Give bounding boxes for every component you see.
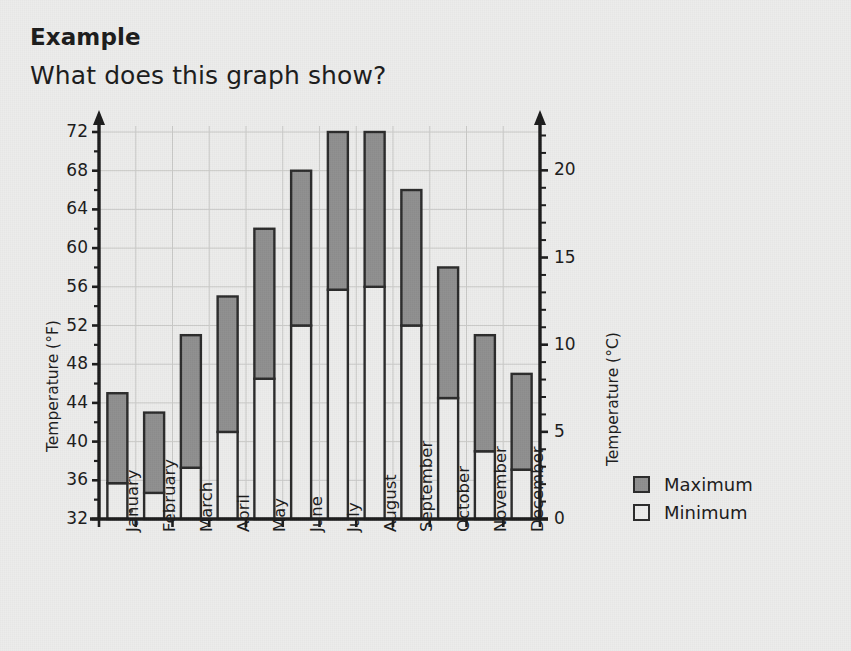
y-tick-label-left-32: 32 <box>40 508 88 528</box>
x-axis-label-april: April <box>234 494 253 532</box>
y-tick-label-left-36: 36 <box>40 469 88 489</box>
y-tick-label-left-40: 40 <box>40 431 88 451</box>
bar-segment-maximum <box>438 267 458 398</box>
legend-label-maximum: Maximum <box>664 474 753 495</box>
y-tick-label-left-52: 52 <box>40 315 88 335</box>
y-tick-label-right-20: 20 <box>554 159 600 179</box>
bar-segment-maximum <box>218 296 238 431</box>
x-axis-label-november: November <box>491 446 510 532</box>
x-axis-label-august: August <box>381 474 400 532</box>
y-tick-label-left-68: 68 <box>40 160 88 180</box>
y-tick-label-right-0: 0 <box>554 508 600 528</box>
bar-segment-maximum <box>181 335 201 468</box>
temperature-range-chart: Temperature (°F) Temperature (°C) 323640… <box>0 0 851 651</box>
y-tick-label-right-10: 10 <box>554 334 600 354</box>
bar-segment-maximum <box>254 229 274 379</box>
y-axis-right-arrowhead <box>534 110 546 125</box>
legend-label-minimum: Minimum <box>664 502 747 523</box>
x-axis-label-may: May <box>270 498 289 532</box>
bar-april[interactable] <box>218 296 238 519</box>
x-axis-label-october: October <box>454 466 473 532</box>
x-axis-label-march: March <box>197 482 216 532</box>
y-tick-label-left-44: 44 <box>40 392 88 412</box>
y-tick-label-left-56: 56 <box>40 276 88 296</box>
x-axis-label-june: June <box>307 496 326 532</box>
y-tick-label-left-48: 48 <box>40 353 88 373</box>
bar-segment-maximum <box>401 190 421 325</box>
y-tick-label-right-15: 15 <box>554 247 600 267</box>
x-axis-label-january: January <box>123 469 142 532</box>
bar-july[interactable] <box>328 132 348 519</box>
x-axis-label-july: July <box>344 502 363 532</box>
legend-swatch-maximum <box>633 476 650 493</box>
y-tick-label-left-72: 72 <box>40 121 88 141</box>
y-tick-label-left-60: 60 <box>40 237 88 257</box>
bar-segment-maximum <box>365 132 385 287</box>
y-axis-title-right: Temperature (°C) <box>604 332 622 466</box>
y-axis-left-arrowhead <box>93 110 105 125</box>
bar-may[interactable] <box>254 229 274 519</box>
bar-august[interactable] <box>365 132 385 519</box>
x-axis-label-december: December <box>528 446 547 532</box>
x-axis-label-september: September <box>417 441 436 532</box>
bar-june[interactable] <box>291 171 311 519</box>
y-tick-label-right-5: 5 <box>554 421 600 441</box>
y-tick-label-left-64: 64 <box>40 198 88 218</box>
x-axis-label-february: February <box>160 459 179 532</box>
bar-segment-minimum <box>328 290 348 519</box>
legend-swatch-minimum <box>633 504 650 521</box>
bar-segment-maximum <box>291 171 311 326</box>
chart-canvas <box>0 0 851 651</box>
bar-segment-maximum <box>328 132 348 290</box>
bar-segment-maximum <box>475 335 495 451</box>
page-root: Example What does this graph show? Tempe… <box>0 0 851 651</box>
bar-segment-minimum <box>291 326 311 520</box>
